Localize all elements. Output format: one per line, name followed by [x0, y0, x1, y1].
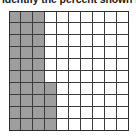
grid-cell-shaded [9, 95, 21, 107]
grid-cell-unshaded [117, 35, 129, 47]
figure-caption-clipped: identify the percent shown in [0, 0, 136, 7]
grid-cell-unshaded [81, 83, 93, 95]
grid-cell-unshaded [81, 23, 93, 35]
grid-cell-unshaded [93, 35, 105, 47]
grid-cell-unshaded [45, 11, 57, 23]
grid-cell-unshaded [69, 71, 81, 83]
grid-cell-unshaded [105, 35, 117, 47]
grid-cell-shaded [33, 71, 45, 83]
grid-cell-unshaded [69, 11, 81, 23]
grid-cell-unshaded [69, 119, 81, 131]
grid-cell-shaded [45, 119, 57, 131]
grid-cell-shaded [33, 35, 45, 47]
grid-cell-shaded [21, 119, 33, 131]
grid-cell-shaded [33, 83, 45, 95]
grid-cell-shaded [21, 47, 33, 59]
grid-cell-unshaded [45, 59, 57, 71]
grid-cell-unshaded [81, 95, 93, 107]
grid-cell-unshaded [93, 11, 105, 23]
grid-cell-unshaded [81, 11, 93, 23]
grid-cell-unshaded [69, 107, 81, 119]
grid-cell-shaded [21, 11, 33, 23]
grid-cell-unshaded [117, 23, 129, 35]
grid-cell-unshaded [81, 35, 93, 47]
grid-cell-shaded [21, 35, 33, 47]
grid-cell-unshaded [81, 107, 93, 119]
grid-cell-unshaded [117, 83, 129, 95]
grid-cell-unshaded [81, 59, 93, 71]
grid-cell-unshaded [81, 71, 93, 83]
grid-cell-shaded [9, 107, 21, 119]
grid-cell-shaded [9, 11, 21, 23]
grid-cell-unshaded [57, 107, 69, 119]
grid-cell-shaded [9, 119, 21, 131]
grid-cell-shaded [9, 59, 21, 71]
grid-cell-shaded [45, 83, 57, 95]
grid-cell-unshaded [117, 71, 129, 83]
grid-cell-shaded [9, 83, 21, 95]
grid-cell-unshaded [69, 83, 81, 95]
grid-cell-unshaded [93, 107, 105, 119]
grid-cell-shaded [33, 11, 45, 23]
grid-cell-unshaded [105, 59, 117, 71]
grid-cell-shaded [9, 47, 21, 59]
grid-cell-unshaded [93, 23, 105, 35]
grid-cell-unshaded [105, 119, 117, 131]
grid-cell-unshaded [105, 83, 117, 95]
grid-cell-shaded [9, 35, 21, 47]
grid-cell-unshaded [117, 107, 129, 119]
grid-cell-unshaded [93, 71, 105, 83]
grid-cell-unshaded [105, 95, 117, 107]
grid-cell-unshaded [105, 71, 117, 83]
grid-cell-unshaded [93, 119, 105, 131]
grid-cell-shaded [21, 59, 33, 71]
grid-cell-unshaded [45, 47, 57, 59]
percent-grid-figure: identify the percent shown in [0, 0, 136, 137]
grid-cell-unshaded [117, 59, 129, 71]
grid-cell-unshaded [93, 59, 105, 71]
grid-cell-unshaded [45, 23, 57, 35]
grid-cell-unshaded [69, 47, 81, 59]
grid-cell-shaded [33, 59, 45, 71]
grid-cell-shaded [33, 95, 45, 107]
grid-cell-unshaded [57, 35, 69, 47]
grid-cell-unshaded [117, 119, 129, 131]
grid-cell-shaded [33, 107, 45, 119]
grid-cell-unshaded [57, 71, 69, 83]
grid-cell-unshaded [45, 71, 57, 83]
grid-cell-unshaded [93, 83, 105, 95]
grid-cell-unshaded [57, 47, 69, 59]
grid-cell-shaded [21, 107, 33, 119]
grid-cell-shaded [21, 83, 33, 95]
grid-cell-unshaded [93, 47, 105, 59]
grid-cell-unshaded [117, 95, 129, 107]
grid-cell-unshaded [69, 59, 81, 71]
grid-cell-unshaded [105, 107, 117, 119]
grid-cell-unshaded [69, 35, 81, 47]
grid-cell-shaded [33, 119, 45, 131]
grid-cell-shaded [45, 107, 57, 119]
grid-cell-unshaded [117, 11, 129, 23]
grid-cell-unshaded [105, 23, 117, 35]
grid-cell-unshaded [57, 95, 69, 107]
grid-cell-unshaded [81, 47, 93, 59]
grid-cell-shaded [33, 47, 45, 59]
grid-cell-shaded [21, 23, 33, 35]
grid-cell-unshaded [57, 83, 69, 95]
grid-cell-shaded [9, 71, 21, 83]
grid-cell-unshaded [57, 23, 69, 35]
grid-cell-shaded [33, 23, 45, 35]
grid-cell-unshaded [117, 47, 129, 59]
grid-cell-unshaded [81, 119, 93, 131]
grid-cell-unshaded [69, 23, 81, 35]
grid-cell-unshaded [57, 119, 69, 131]
grid-cell-unshaded [93, 95, 105, 107]
grid-cell-shaded [21, 71, 33, 83]
grid-cell-shaded [45, 95, 57, 107]
figure-caption-text: identify the percent shown in [2, 0, 136, 6]
grid-cell-unshaded [57, 11, 69, 23]
grid-cell-unshaded [57, 59, 69, 71]
grid-cell-unshaded [105, 11, 117, 23]
grid-cell-unshaded [45, 35, 57, 47]
grid-cell-shaded [9, 23, 21, 35]
